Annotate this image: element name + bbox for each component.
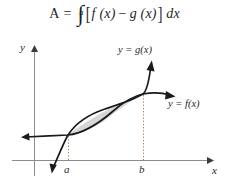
- plot-canvas: [0, 0, 229, 180]
- g-curve-label: y = g(x): [118, 44, 152, 55]
- g-curve-top-arrowhead: [147, 61, 155, 72]
- f-curve-path: [26, 93, 170, 137]
- x-axis-arrowhead: [207, 157, 214, 164]
- bound-b-label: b: [139, 163, 145, 175]
- bound-a-label: a: [64, 163, 70, 175]
- area-between-curves-figure: A=∫ba[f (x)−g (x)]dx y x a b y = g(x) y …: [0, 0, 229, 180]
- y-axis-arrowhead: [31, 45, 38, 52]
- g-curve-bottom-arrowhead: [50, 164, 57, 174]
- y-axis-label: y: [20, 41, 25, 53]
- f-curve-left-arrowhead: [21, 133, 30, 141]
- x-axis-label: x: [212, 164, 217, 176]
- f-curve-label: y = f(x): [168, 98, 200, 109]
